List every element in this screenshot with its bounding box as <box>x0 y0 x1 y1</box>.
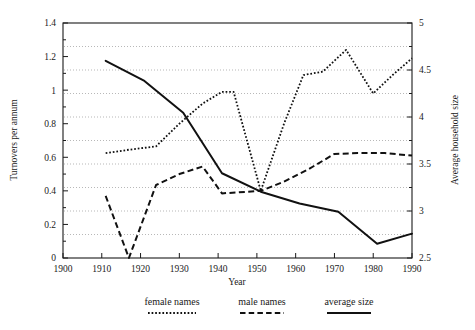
x-tick-label: 1910 <box>92 264 111 274</box>
y2-tick-label: 3 <box>419 206 424 216</box>
legend-label-female-names: female names <box>144 296 199 307</box>
legend-label-average-size: average size <box>324 296 374 307</box>
x-tick-label: 1980 <box>364 264 383 274</box>
y2-tick-label: 4 <box>419 112 424 122</box>
x-tick-label: 1990 <box>403 264 422 274</box>
chart-legend: female namesmale namesaverage size <box>144 296 374 313</box>
y-tick-label: 0.2 <box>44 220 56 230</box>
right-axis-tick-labels: 2.533.544.55 <box>419 18 431 263</box>
data-series-group <box>106 50 412 258</box>
y-tick-label: 1.2 <box>44 52 56 62</box>
x-axis-tick-labels: 1900191019201930194019501960197019801990 <box>54 264 422 274</box>
series-male-names <box>106 153 412 258</box>
y2-axis-title: Average household size <box>450 95 460 185</box>
x-tick-label: 1900 <box>54 264 73 274</box>
y2-tick-label: 4.5 <box>419 65 431 75</box>
series-female-names <box>106 50 412 191</box>
y-tick-label: 0.6 <box>44 153 56 163</box>
y-axis-title: Turnovers per annum <box>9 99 19 181</box>
x-tick-label: 1920 <box>131 264 150 274</box>
x-axis-ticks <box>63 253 412 258</box>
x-tick-label: 1930 <box>170 264 189 274</box>
y2-tick-label: 5 <box>419 18 424 28</box>
y-tick-label: 1.4 <box>44 18 56 28</box>
chart-figure: 00.20.40.60.811.21.4 2.533.544.55 190019… <box>0 0 475 330</box>
line-chart: 00.20.40.60.811.21.4 2.533.544.55 190019… <box>0 0 475 330</box>
y-tick-label: 0.4 <box>44 186 56 196</box>
x-tick-label: 1950 <box>247 264 266 274</box>
y-tick-label: 0 <box>51 253 56 263</box>
x-tick-label: 1940 <box>209 264 228 274</box>
y-tick-label: 1 <box>51 86 56 96</box>
x-axis-title: Year <box>228 277 246 287</box>
y-tick-label: 0.8 <box>44 119 56 129</box>
left-axis-tick-labels: 00.20.40.60.811.21.4 <box>44 18 56 263</box>
y2-tick-label: 3.5 <box>419 159 431 169</box>
x-tick-label: 1960 <box>286 264 305 274</box>
x-tick-label: 1970 <box>325 264 344 274</box>
legend-label-male-names: male names <box>238 296 286 307</box>
gridlines <box>64 47 411 235</box>
y2-tick-label: 2.5 <box>419 253 431 263</box>
